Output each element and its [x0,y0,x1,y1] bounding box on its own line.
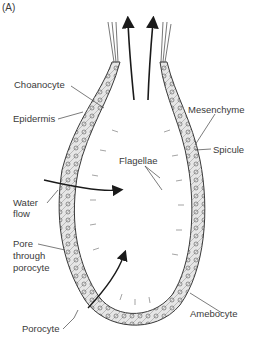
label-porocyte: Porocyte [22,323,60,334]
label-flagellae: Flagellae [119,155,158,166]
label-spicule: Spicule [213,144,244,155]
label-pore-line3: porocyte [13,262,49,273]
label-pore-line1: Pore [13,238,33,249]
label-epidermis: Epidermis [13,113,55,124]
exhalent-arrow-left [128,22,134,100]
label-water-flow-line2: flow [13,208,30,219]
label-water-flow-line1: Water [13,197,38,208]
label-pore-line2: through [13,250,45,261]
osculum-left-spikes [108,22,118,62]
sponge-diagram [0,0,267,351]
water-flow-arrow [44,180,118,190]
label-amebocyte: Amebocyte [190,308,238,319]
label-mesenchyme: Mesenchyme [188,104,245,115]
exhalent-arrow-right [148,22,153,100]
body-wall [59,62,205,325]
osculum-right-spikes [161,22,171,62]
label-choanocyte: Choanocyte [14,79,65,90]
panel-label: (A) [2,2,15,13]
